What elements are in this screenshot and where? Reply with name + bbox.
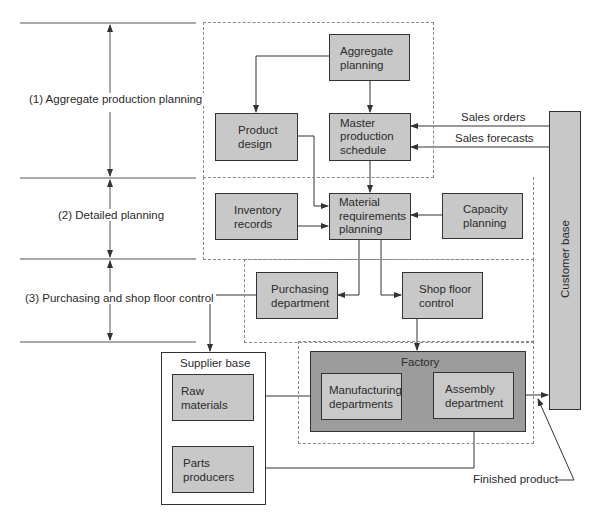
node-material-requirements-planning[interactable]: Material requirements planning	[329, 193, 411, 240]
node-assembly-department[interactable]: Assembly department	[433, 372, 514, 419]
factory-title: Factory	[401, 356, 439, 368]
node-label: Aggregate planning	[340, 44, 393, 72]
level-label-purchasing: (3) Purchasing and shop floor control	[23, 292, 216, 304]
level-label-detailed: (2) Detailed planning	[56, 209, 166, 221]
edge-label-sales-forecasts: Sales forecasts	[455, 132, 534, 144]
node-master-production-schedule[interactable]: Master production schedule	[329, 113, 411, 161]
node-raw-materials[interactable]: Raw materials	[172, 374, 254, 421]
node-manufacturing-departments[interactable]: Manufacturing departments	[321, 373, 402, 420]
node-label: Capacity planning	[453, 202, 508, 230]
node-shop-floor-control[interactable]: Shop floor control	[402, 272, 483, 319]
node-label: Inventory records	[226, 203, 281, 231]
edge-label-finished-product: Finished product	[473, 473, 558, 485]
node-label: Assembly department	[445, 382, 503, 410]
node-label: Master production schedule	[340, 117, 394, 158]
node-label: Manufacturing departments	[329, 383, 402, 411]
node-capacity-planning[interactable]: Capacity planning	[442, 193, 523, 239]
level-label-aggregate: (1) Aggregate production planning	[27, 93, 204, 105]
node-label: Purchasing department	[267, 282, 329, 310]
edge-label-sales-orders: Sales orders	[461, 111, 526, 123]
node-inventory-records[interactable]: Inventory records	[215, 193, 298, 240]
customer-base-label: Customer base	[559, 219, 571, 299]
node-label: Product design	[226, 123, 278, 151]
node-parts-producers[interactable]: Parts producers	[172, 446, 254, 493]
node-aggregate-planning[interactable]: Aggregate planning	[329, 34, 410, 81]
supplier-base-title: Supplier base	[180, 357, 250, 369]
node-purchasing-department[interactable]: Purchasing department	[256, 272, 338, 319]
node-label: Material requirements planning	[339, 196, 406, 237]
node-product-design[interactable]: Product design	[215, 113, 298, 161]
node-label: Raw materials	[181, 384, 253, 412]
node-label: Parts producers	[183, 456, 234, 484]
node-label: Shop floor control	[413, 282, 471, 310]
